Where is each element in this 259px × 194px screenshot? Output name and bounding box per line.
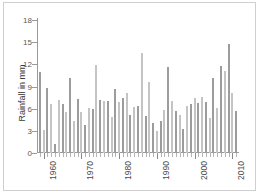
- y-axis-tick-label: 15: [23, 38, 32, 47]
- bar: [148, 82, 150, 153]
- bar: [133, 107, 135, 153]
- x-axis-tick: [47, 153, 48, 157]
- bar: [186, 106, 188, 153]
- bar: [216, 108, 218, 153]
- x-axis-tick: [89, 153, 90, 157]
- x-axis-tick: [96, 153, 97, 157]
- x-axis-tick: [59, 153, 60, 157]
- y-axis-tick-labels: 0369121518: [12, 0, 32, 194]
- x-axis-tick: [153, 153, 154, 157]
- bar: [220, 66, 222, 153]
- x-axis-tick: [161, 153, 162, 157]
- bar: [114, 89, 116, 153]
- x-axis-major-tick: [44, 153, 45, 159]
- x-axis-tick: [225, 153, 226, 157]
- bar: [156, 131, 158, 153]
- bar: [197, 103, 199, 153]
- x-axis-tick: [134, 153, 135, 157]
- x-axis-tick: [70, 153, 71, 157]
- bar: [69, 78, 71, 153]
- y-axis-tick-label: 12: [23, 60, 32, 69]
- x-axis-tick: [180, 153, 181, 157]
- bar: [201, 97, 203, 153]
- bar: [54, 144, 56, 153]
- x-axis-tick: [187, 153, 188, 157]
- bar: [39, 72, 41, 153]
- x-axis-tick: [142, 153, 143, 157]
- x-axis-tick: [213, 153, 214, 157]
- bar: [167, 67, 169, 153]
- bar: [137, 106, 139, 153]
- x-axis-tick: [202, 153, 203, 157]
- x-axis-tick: [198, 153, 199, 157]
- x-axis-tick: [85, 153, 86, 157]
- x-axis-tick-label: 1960: [48, 161, 58, 180]
- bar: [224, 71, 226, 153]
- bar: [118, 102, 120, 153]
- x-axis-tick-label: 2010: [236, 161, 246, 180]
- bar: [129, 115, 131, 153]
- bar: [228, 44, 230, 153]
- bar: [77, 99, 79, 153]
- x-axis-tick: [115, 153, 116, 157]
- x-axis-tick: [229, 153, 230, 157]
- x-axis-tick: [221, 153, 222, 157]
- bar: [111, 117, 113, 153]
- x-axis-tick: [93, 153, 94, 157]
- x-axis-tick: [149, 153, 150, 157]
- x-axis-tick: [74, 153, 75, 157]
- bar: [182, 129, 184, 153]
- bar: [190, 104, 192, 153]
- x-axis-tick: [191, 153, 192, 157]
- bar: [152, 123, 154, 153]
- x-axis-major-tick: [157, 153, 158, 159]
- chart-figure: Rainfall in mm 0369121518 19601970198019…: [0, 0, 259, 194]
- y-axis-tick-label: 18: [23, 16, 32, 25]
- bar: [160, 121, 162, 154]
- bar: [46, 88, 48, 153]
- x-axis-major-tick: [81, 153, 82, 159]
- x-axis-tick: [183, 153, 184, 157]
- bar: [205, 102, 207, 153]
- bar: [171, 101, 173, 153]
- bar: [43, 130, 45, 153]
- x-axis-tick: [66, 153, 67, 157]
- bar: [58, 100, 60, 153]
- x-axis-tick-label: 1970: [85, 161, 95, 180]
- x-axis-major-tick: [195, 153, 196, 159]
- bar: [145, 116, 147, 153]
- bar: [175, 111, 177, 153]
- x-axis-tick: [236, 153, 237, 157]
- bar: [212, 78, 214, 153]
- x-axis-tick: [51, 153, 52, 157]
- bar: [95, 65, 97, 153]
- x-axis-major-tick: [119, 153, 120, 159]
- bar: [84, 125, 86, 153]
- plot-area: [38, 20, 238, 153]
- x-axis-tick: [130, 153, 131, 157]
- x-axis-major-tick: [232, 153, 233, 159]
- bar: [235, 111, 237, 153]
- y-axis-tick: [32, 153, 37, 154]
- x-axis-tick: [176, 153, 177, 157]
- x-axis-tick: [206, 153, 207, 157]
- x-axis-tick: [55, 153, 56, 157]
- bar: [141, 53, 143, 153]
- bar: [126, 93, 128, 153]
- x-axis-tick: [40, 153, 41, 157]
- x-axis-tick: [210, 153, 211, 157]
- bar: [209, 118, 211, 153]
- x-axis-tick: [123, 153, 124, 157]
- x-axis-tick: [100, 153, 101, 157]
- bar: [107, 101, 109, 153]
- bar: [50, 104, 52, 154]
- x-axis-tick-label: 2000: [199, 161, 209, 180]
- bar: [99, 100, 101, 153]
- bar: [163, 110, 165, 153]
- x-axis-tick: [127, 153, 128, 157]
- bar: [80, 112, 82, 153]
- bar: [231, 93, 233, 153]
- x-axis-tick: [78, 153, 79, 157]
- bar: [194, 98, 196, 153]
- x-axis-tick: [217, 153, 218, 157]
